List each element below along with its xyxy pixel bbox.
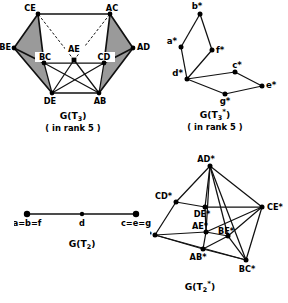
edge-cestar-bcstar [246, 207, 262, 260]
vertex-label-c-star: c* [232, 60, 242, 70]
edge-gstar-estar [225, 86, 262, 94]
vertex-labels-g-t3-star: b* a* f* d* c* g* e* [167, 2, 277, 106]
vertex-label-ab: AB [94, 96, 107, 106]
node-bc-star[interactable] [244, 258, 249, 263]
edge-bstar-astar [181, 14, 200, 47]
caption-g-t3-star-main: G(T3*) [200, 107, 230, 122]
vertex-label-de-star: DE* [194, 209, 211, 219]
caption-g-t2: G(T2) [69, 238, 96, 251]
node-f-star[interactable] [210, 48, 215, 53]
edge-aestar-abstar [203, 232, 206, 249]
vertex-label-cd: CD [98, 52, 111, 62]
vertex-label-d: d [79, 218, 85, 228]
node-be[interactable] [12, 46, 17, 51]
panel-g-t3: CE AC BE AD BC CD AE DE AB G(T3) ( in ra… [0, 0, 160, 140]
vertex-label-be: BE [0, 42, 11, 52]
caption-g-t3: G(T3) ( in rank 5 ) [45, 110, 100, 133]
panel-g-t2-star: AD* CD* DE* CE* AC* AE* BE* AB* BC* G(T2… [150, 152, 288, 303]
edge-fstar-dstar [187, 50, 212, 79]
node-a-star[interactable] [179, 45, 184, 50]
edge-bstar-fstar [200, 14, 212, 50]
edge-bestar-abstar [203, 236, 228, 249]
vertex-label-d-star: d* [172, 68, 183, 78]
node-c-star[interactable] [233, 70, 238, 75]
vertex-label-ac: AC [106, 3, 118, 13]
caption-g-t3-note: ( in rank 5 ) [45, 123, 100, 133]
vertex-label-e-star: e* [266, 80, 277, 90]
edge-cdstar-destar [176, 202, 205, 207]
edge-dstar-gstar [187, 79, 225, 94]
vertex-label-ab-star: AB* [190, 252, 208, 262]
panel-g-t2: a=b=f d c=e=g G(T2) [14, 200, 164, 260]
edge-ae-de [52, 60, 74, 93]
vertex-label-ce-star: CE* [267, 202, 284, 212]
vertex-label-b-star: b* [192, 2, 203, 11]
edge-ae-ab [74, 60, 99, 93]
vertex-label-bc: BC [39, 52, 51, 62]
figure-root: CE AC BE AD BC CD AE DE AB G(T3) ( in ra… [0, 0, 288, 303]
panel-g-t3-star: b* a* f* d* c* g* e* G(T3*) ( in rank 5 … [163, 2, 288, 142]
node-ce[interactable] [36, 12, 41, 17]
vertex-label-ce: CE [24, 3, 36, 13]
node-e-star[interactable] [260, 84, 265, 89]
vertex-label-f-star: f* [216, 45, 225, 55]
node-ad[interactable] [131, 46, 136, 51]
vertex-labels-g-t2: a=b=f d c=e=g [14, 218, 151, 228]
node-cd-star[interactable] [174, 200, 179, 205]
node-c-e-g[interactable] [133, 211, 139, 217]
vertex-label-ac-star: AC* [150, 230, 153, 240]
node-de[interactable] [50, 91, 55, 96]
vertex-label-ae-star: AE* [192, 221, 209, 231]
edge-acstar-aestar [155, 232, 206, 235]
vertex-label-a-star: a* [167, 36, 178, 46]
vertex-label-de: DE [44, 96, 56, 106]
node-d[interactable] [80, 212, 84, 216]
caption-g-t2-star-main: G(T2*) [185, 279, 215, 294]
node-a-b-f[interactable] [24, 211, 30, 217]
node-ab[interactable] [97, 91, 102, 96]
node-ac-star[interactable] [153, 233, 158, 238]
edge-cstar-estar [235, 72, 262, 86]
caption-g-t2-star: G(T2*) [185, 279, 215, 294]
edge-bc-ab [44, 63, 99, 93]
caption-g-t3-star: G(T3*) ( in rank 5 ) [187, 107, 242, 132]
node-ad-star[interactable] [208, 164, 213, 169]
vertex-label-be-star: BE* [218, 226, 235, 236]
vertex-label-ad-star: AD* [197, 154, 215, 164]
edge-adstar-cdstar [176, 166, 210, 202]
edge-dstar-cstar [187, 72, 235, 79]
vertex-label-bc-star: BC* [239, 264, 256, 274]
vertex-label-ad: AD [137, 42, 150, 52]
node-ab-star[interactable] [201, 247, 206, 252]
edge-cdstar-acstar [155, 202, 176, 235]
caption-g-t2-main: G(T2) [69, 238, 96, 251]
vertex-label-g-star: g* [220, 96, 231, 106]
caption-g-t3-main: G(T3) [60, 110, 87, 123]
node-ae[interactable] [72, 58, 77, 63]
caption-g-t3-star-note: ( in rank 5 ) [187, 122, 242, 132]
vertex-label-c-e-g: c=e=g [121, 218, 151, 228]
node-ce-star[interactable] [260, 205, 265, 210]
node-b-star[interactable] [198, 12, 203, 17]
vertex-label-ae: AE [68, 44, 80, 54]
node-d-star[interactable] [185, 77, 190, 82]
vertex-label-a-b-f: a=b=f [14, 218, 42, 228]
vertex-label-cd-star: CD* [155, 191, 173, 201]
